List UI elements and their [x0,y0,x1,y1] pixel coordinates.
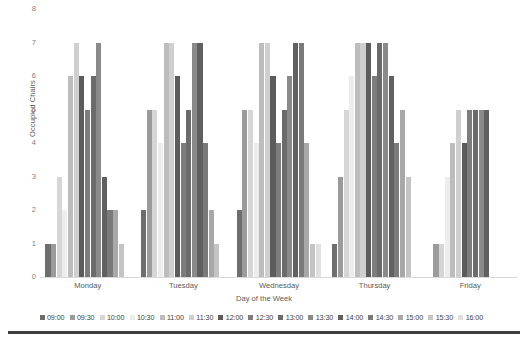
legend-swatch-icon [278,315,283,320]
legend-swatch-icon [189,315,194,320]
legend-item-1430[interactable]: 14:30 [368,313,393,322]
bar [389,76,394,277]
bar [45,244,50,278]
bar [147,110,152,278]
bar [186,110,191,278]
bar [332,244,337,278]
legend-item-1600[interactable]: 16:00 [458,313,483,322]
x-tick-label-wednesday: Wednesday [231,281,327,290]
x-tick-label-monday: Monday [40,281,136,290]
bar [102,177,107,278]
legend-label: 09:30 [77,313,95,322]
legend-label: 09:00 [47,313,65,322]
legend-swatch-icon [100,315,105,320]
bar [259,43,264,278]
chart-legend: 09:0009:3010:0010:3011:0011:3012:0012:30… [0,313,528,322]
legend-swatch-icon [308,315,313,320]
bar [299,43,304,278]
legend-label: 14:00 [346,313,364,322]
y-tick-label: 5 [22,106,36,114]
bar [169,43,174,278]
bar [242,110,247,278]
legend-label: 15:30 [436,313,454,322]
legend-swatch-icon [218,315,223,320]
legend-swatch-icon [338,315,343,320]
bar [91,76,96,277]
bar [237,210,242,277]
legend-item-1400[interactable]: 14:00 [338,313,363,322]
legend-swatch-icon [130,315,135,320]
legend-item-1230[interactable]: 12:30 [248,313,273,322]
bar [366,43,371,278]
legend-label: 10:30 [137,313,155,322]
y-tick-label: 8 [22,5,36,13]
bar [248,110,253,278]
y-tick-label: 0 [22,273,36,281]
legend-label: 14:30 [376,313,394,322]
legend-divider-rule [8,331,520,334]
bar [473,110,478,278]
bar [276,143,281,277]
legend-swatch-icon [428,315,433,320]
bar [433,244,438,278]
bar [119,244,124,278]
bar [57,177,62,278]
bar [377,43,382,278]
legend-swatch-icon [398,315,403,320]
legend-item-1030[interactable]: 10:30 [130,313,155,322]
legend-item-1500[interactable]: 15:00 [398,313,423,322]
bar [181,143,186,277]
bar [270,76,275,277]
y-tick-label: 3 [22,173,36,181]
legend-item-0930[interactable]: 09:30 [70,313,95,322]
bar [192,43,197,278]
bar [107,210,112,277]
bar [450,143,455,277]
legend-item-1330[interactable]: 13:30 [308,313,333,322]
bar [152,110,157,278]
legend-item-1530[interactable]: 15:30 [428,313,453,322]
legend-item-1100[interactable]: 11:00 [160,313,184,322]
bar [158,143,163,277]
bar [355,43,360,278]
bar [96,43,101,278]
legend-item-1000[interactable]: 10:00 [100,313,125,322]
legend-label: 13:30 [316,313,334,322]
legend-swatch-icon [160,315,165,320]
y-tick-label: 7 [22,39,36,47]
legend-item-1300[interactable]: 13:00 [278,313,303,322]
x-tick-label-tuesday: Tuesday [136,281,232,290]
bar [360,43,365,278]
bar [400,110,405,278]
bar [282,110,287,278]
legend-label: 12:00 [226,313,244,322]
legend-label: 11:00 [167,313,184,322]
bar [394,143,399,277]
legend-item-1200[interactable]: 12:00 [218,313,243,322]
legend-swatch-icon [458,315,463,320]
y-tick-label: 1 [22,240,36,248]
bar [197,43,202,278]
legend-swatch-icon [248,315,253,320]
bar [316,244,321,278]
bar-group-monday [45,9,130,277]
bar [141,210,146,277]
x-tick-label-thursday: Thursday [327,281,423,290]
legend-item-1130[interactable]: 11:30 [189,313,213,322]
bar [445,177,450,278]
bar [68,76,73,277]
bar [254,143,259,277]
chart-screenshot: Occupied Chairs 876543210 MondayTuesdayW… [0,0,528,342]
bar [310,244,315,278]
legend-swatch-icon [40,315,45,320]
bar [79,76,84,277]
bar [383,43,388,278]
bar [304,143,309,277]
bar [439,244,444,278]
bar [203,143,208,277]
legend-swatch-icon [70,315,75,320]
bar-group-tuesday [141,9,226,277]
bar [456,110,461,278]
legend-item-0900[interactable]: 09:00 [40,313,65,322]
bar [214,244,219,278]
